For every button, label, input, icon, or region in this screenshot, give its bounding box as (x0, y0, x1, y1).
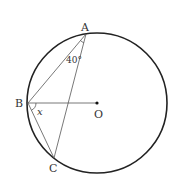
angle-label-x: x (37, 106, 43, 117)
angle-label-40: 40° (66, 55, 82, 65)
label-b: B (15, 97, 23, 110)
label-c: C (49, 162, 57, 175)
angle-arc-b (32, 103, 37, 110)
center-point-o (95, 101, 98, 104)
label-o: O (94, 108, 103, 121)
angle-arc-a (81, 41, 84, 43)
label-a: A (80, 21, 90, 34)
geometry-diagram: A B C O 40° x (0, 0, 174, 187)
